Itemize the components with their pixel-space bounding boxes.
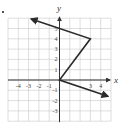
y-tick-label: 1 [55,67,58,73]
y-axis-label: y [56,3,61,13]
x-tick-label: -1 [47,83,52,89]
y-tick-label: -1 [53,87,58,93]
x-tick-label: -2 [36,83,41,89]
y-tick-label: 4 [55,36,58,42]
y-tick-label: 2 [55,56,58,62]
x-tick-label: 4 [99,83,102,89]
x-axis-label: x [113,75,118,85]
y-tick-label: -3 [53,108,58,114]
y-tick-label: -2 [53,98,58,104]
coordinate-plane: -4-3-2-13454321-1-2-3 x y [0,0,121,129]
x-tick-label: 3 [89,83,92,89]
x-tick-label: -3 [26,83,31,89]
y-tick-label: 3 [55,46,58,52]
x-tick-label: -4 [16,83,21,89]
